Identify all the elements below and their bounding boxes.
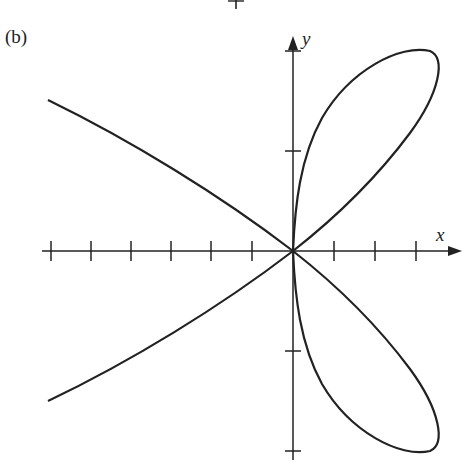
chart-plot xyxy=(0,0,462,462)
panel-label: (b) xyxy=(5,26,27,48)
x-axis-label: x xyxy=(436,224,444,246)
x-axis-arrow-icon xyxy=(448,246,462,256)
chart-figure: (b) x y xyxy=(0,0,462,462)
y-axis-arrow-icon xyxy=(288,36,298,50)
y-axis-label: y xyxy=(302,28,310,50)
